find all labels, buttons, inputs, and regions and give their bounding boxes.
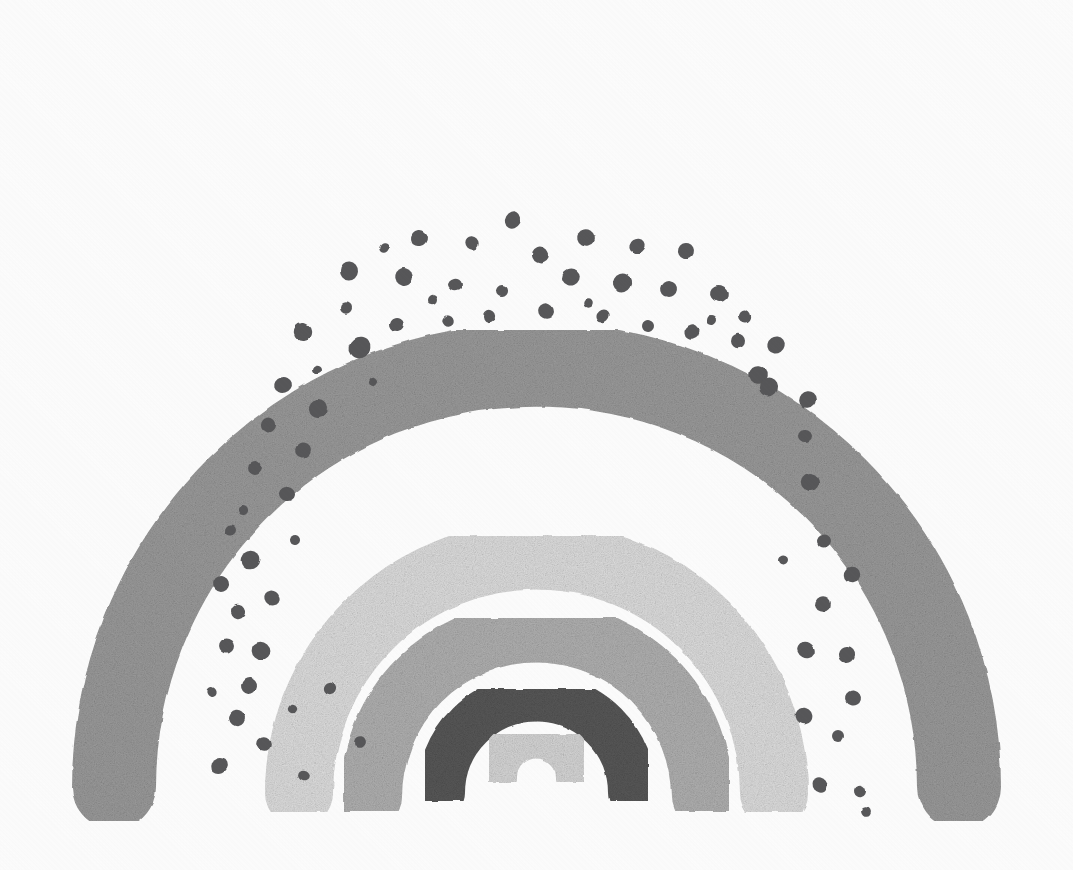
illustration-artboard: Boho Rainbow: [0, 0, 1073, 870]
rainbow-dot: [832, 730, 844, 742]
boho-rainbow-illustration: Boho Rainbow: [0, 0, 1073, 870]
